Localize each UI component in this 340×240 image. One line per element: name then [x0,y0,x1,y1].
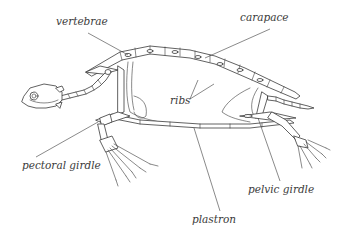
leader-lines [36,29,280,211]
carapace-leader [205,29,270,58]
tail [268,96,314,109]
turtle-skeleton-diagram: vertebrae carapace ribs pectoral girdle … [0,0,340,240]
pectoral-girdle-shape [96,66,130,126]
label-pelvic-girdle: pelvic girdle [248,184,314,195]
label-plastron: plastron [192,214,236,225]
plastron-leader [194,128,220,211]
pectoral-girdle-leader [36,122,98,157]
front-limb [98,124,158,186]
carapace-front [86,66,118,74]
label-carapace: carapace [240,12,289,23]
label-ribs: ribs [170,95,191,106]
hind-limb [268,112,330,168]
ribs-leader [190,80,214,99]
pelvic-girdle-leader [258,118,280,181]
label-vertebrae: vertebrae [56,16,108,27]
label-pectoral-girdle: pectoral girdle [22,160,101,171]
skull [22,84,64,108]
vertebrae-leader [88,33,128,55]
skeleton-drawing [0,0,340,240]
